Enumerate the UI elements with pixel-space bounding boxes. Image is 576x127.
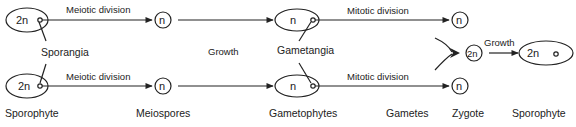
growth-middle-label: Growth (208, 46, 239, 57)
sporophyte-final-symbol: 2n (527, 47, 539, 59)
zygote-symbol: 2n (467, 48, 478, 59)
life-cycle-diagram: 2n Meiotic division n n Mitotic division… (0, 0, 576, 127)
gametangia-label: Gametangia (277, 44, 334, 56)
meiotic-bottom-label: Meiotic division (66, 71, 130, 82)
stage-label-gametes: Gametes (386, 107, 429, 119)
gamete-bottom-symbol: n (456, 80, 462, 92)
meiotic-top-label: Meiotic division (66, 4, 130, 15)
gamete-top-node: n (452, 12, 468, 28)
gametangia-pointer-bottom (299, 63, 311, 83)
fusion-curve-bottom (435, 54, 452, 70)
gametophyte-bottom-node: n (275, 75, 319, 97)
sporophyte-final-node: 2n (519, 41, 573, 65)
gametangia-pointer-top (299, 22, 311, 41)
sporophyte-bottom-symbol: 2n (18, 80, 30, 92)
sporangium-top-icon (38, 18, 42, 22)
growth-final-label: Growth (484, 37, 515, 48)
gametangium-top-icon (311, 18, 315, 22)
fusion-curve-top (435, 38, 452, 52)
gametophyte-top-node: n (275, 9, 319, 31)
stage-label-gametophytes: Gametophytes (269, 107, 337, 119)
gamete-bottom-node: n (452, 78, 468, 94)
sporangia-pointer-top (39, 22, 46, 41)
sporangium-final-icon (554, 52, 558, 56)
sporophyte-top-symbol: 2n (16, 14, 28, 26)
mitotic-top-label: Mitotic division (347, 5, 409, 16)
meiospore-top-symbol: n (159, 14, 165, 26)
mitotic-bottom-label: Mitotic division (347, 71, 409, 82)
gametophyte-top-symbol: n (290, 14, 296, 26)
gamete-top-symbol: n (456, 14, 462, 26)
zygote-node: 2n (466, 45, 482, 61)
sporophyte-bottom-node: 2n (6, 74, 48, 98)
sporangium-bottom-icon (38, 84, 42, 88)
fusion-arrowhead-icon (450, 48, 460, 58)
sporangia-label: Sporangia (41, 46, 89, 58)
stage-label-sporophyte: Sporophyte (5, 107, 59, 119)
meiospore-top-node: n (155, 12, 171, 28)
gametangium-bottom-icon (311, 84, 315, 88)
stage-label-sporophyte-final: Sporophyte (512, 107, 566, 119)
stage-label-zygote: Zygote (452, 107, 484, 119)
stage-label-meiospores: Meiospores (136, 107, 190, 119)
gametophyte-bottom-symbol: n (290, 80, 296, 92)
meiospore-bottom-node: n (155, 78, 171, 94)
meiospore-bottom-symbol: n (159, 80, 165, 92)
